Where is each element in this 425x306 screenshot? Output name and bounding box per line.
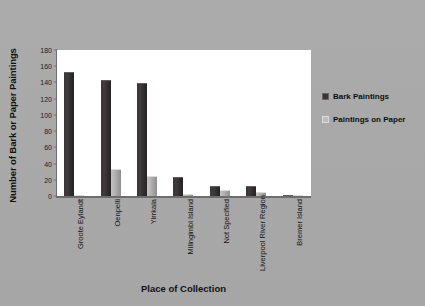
bar xyxy=(283,195,293,197)
bar-series-container xyxy=(56,50,311,196)
bar xyxy=(183,194,193,196)
bar-group xyxy=(238,50,274,196)
x-axis-tick-label: Not Specified xyxy=(223,199,231,271)
x-axis-tick-label: Bremer Island xyxy=(296,199,304,271)
bar-chart: Number of Bark or Paper Paintings 020406… xyxy=(0,0,425,306)
x-axis-tick-label: Milingimbi Island xyxy=(187,199,195,271)
bar-group xyxy=(165,50,201,196)
y-axis-tick-label: 80 xyxy=(44,128,52,135)
y-axis-tick-label: 100 xyxy=(40,111,52,118)
y-axis-tick-label: 120 xyxy=(40,95,52,102)
bar xyxy=(137,83,147,196)
x-axis-title: Place of Collection xyxy=(56,283,311,294)
bar xyxy=(74,195,84,197)
bar-group xyxy=(129,50,165,196)
chart-legend: Bark Paintings Paintings on Paper xyxy=(322,92,405,124)
bar xyxy=(220,190,230,196)
y-axis-tick-label: 60 xyxy=(44,144,52,151)
y-axis-tick-label: 140 xyxy=(40,79,52,86)
x-axis-tick-label: Yirrkala xyxy=(150,199,158,271)
y-axis-title: Number of Bark or Paper Paintings xyxy=(4,45,20,205)
y-axis-tick-label: 40 xyxy=(44,160,52,167)
bar xyxy=(210,186,220,196)
x-axis-tick-labels: Groote EylandtOenpelliYirrkalaMilingimbi… xyxy=(56,199,311,271)
y-axis-title-text: Number of Bark or Paper Paintings xyxy=(7,48,18,203)
bar-group xyxy=(202,50,238,196)
x-axis-line xyxy=(56,196,311,198)
legend-item-bark-paintings: Bark Paintings xyxy=(322,92,405,101)
bar xyxy=(173,177,183,196)
bar xyxy=(147,176,157,196)
bar-group xyxy=(56,50,92,196)
legend-label: Paintings on Paper xyxy=(333,115,405,124)
bar-group xyxy=(92,50,128,196)
bar xyxy=(111,169,121,196)
legend-item-paintings-on-paper: Paintings on Paper xyxy=(322,115,405,124)
bar-group xyxy=(275,50,311,196)
legend-label: Bark Paintings xyxy=(333,92,389,101)
legend-swatch-icon xyxy=(322,116,329,123)
y-axis-tick-label: 0 xyxy=(48,193,52,200)
legend-swatch-icon xyxy=(322,93,329,100)
bar xyxy=(101,80,111,196)
x-axis-tick-label: Groote Eylandt xyxy=(77,199,85,271)
y-axis-tick-label: 180 xyxy=(40,47,52,54)
bar xyxy=(246,186,256,196)
y-axis-tick-label: 20 xyxy=(44,176,52,183)
bar xyxy=(293,195,303,196)
x-axis-tick-label: Oenpelli xyxy=(114,199,122,271)
bar xyxy=(64,72,74,196)
y-axis-tick-label: 160 xyxy=(40,63,52,70)
y-axis-ticks: 020406080100120140160180 xyxy=(22,44,58,202)
x-axis-tick-label: Liverpool River Region xyxy=(259,199,267,271)
